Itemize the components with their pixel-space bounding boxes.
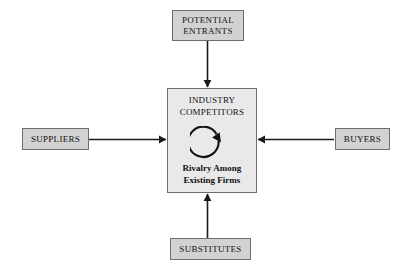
force-box-buyers[interactable]: BUYERS bbox=[335, 128, 390, 150]
force-label-substitutes: SUBSTITUTES bbox=[179, 244, 241, 255]
force-box-substitutes[interactable]: SUBSTITUTES bbox=[170, 238, 251, 260]
porter-five-forces-diagram: POTENTIAL ENTRANTS SUPPLIERS BUYERS SUBS… bbox=[0, 0, 406, 277]
force-label-suppliers: SUPPLIERS bbox=[31, 134, 80, 145]
center-title-line1: INDUSTRY bbox=[168, 95, 256, 107]
center-subtitle-line2: Existing Firms bbox=[168, 175, 256, 187]
circular-arrow-icon bbox=[190, 126, 228, 164]
force-label-potential-entrants-line1: POTENTIAL bbox=[182, 15, 234, 26]
force-box-industry-competitors[interactable]: INDUSTRY COMPETITORS Rivalry Among Exist… bbox=[167, 88, 257, 193]
center-subtitle: Rivalry Among Existing Firms bbox=[168, 163, 256, 186]
center-subtitle-line1: Rivalry Among bbox=[168, 163, 256, 175]
force-label-potential-entrants-line2: ENTRANTS bbox=[183, 26, 232, 37]
force-label-buyers: BUYERS bbox=[344, 134, 381, 145]
force-box-suppliers[interactable]: SUPPLIERS bbox=[22, 128, 89, 150]
center-title: INDUSTRY COMPETITORS bbox=[168, 95, 256, 118]
force-box-potential-entrants[interactable]: POTENTIAL ENTRANTS bbox=[172, 10, 244, 41]
center-title-line2: COMPETITORS bbox=[168, 107, 256, 119]
